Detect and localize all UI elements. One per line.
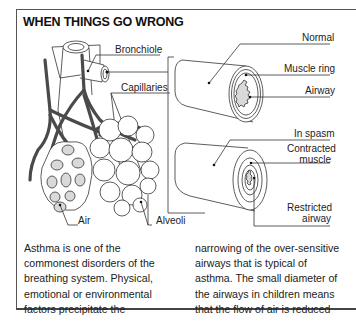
alveoli-cluster	[90, 116, 159, 216]
body-text-column-1: Asthma is one of the commonest disorders…	[24, 241, 174, 317]
normal-airway-tube	[175, 60, 263, 122]
label-airway: Airway	[305, 85, 335, 96]
label-bronchiole: Bronchiole	[115, 44, 162, 55]
label-air: Air	[78, 215, 90, 226]
label-contracted-muscle: Contracted muscle	[287, 143, 331, 165]
label-muscle-ring: Muscle ring	[284, 63, 335, 74]
label-alveoli: Alveoli	[156, 215, 185, 226]
label-restricted-airway: Restricted airway	[287, 202, 331, 224]
body-text-column-2: narrowing of the over-sensitive airways …	[195, 241, 355, 317]
label-capillaries: Capillaries	[121, 82, 168, 93]
tube-panel-frame	[168, 57, 205, 213]
label-normal: Normal	[302, 32, 334, 43]
label-in-spasm: In spasm	[294, 128, 335, 139]
air-sac-cluster	[41, 142, 92, 212]
